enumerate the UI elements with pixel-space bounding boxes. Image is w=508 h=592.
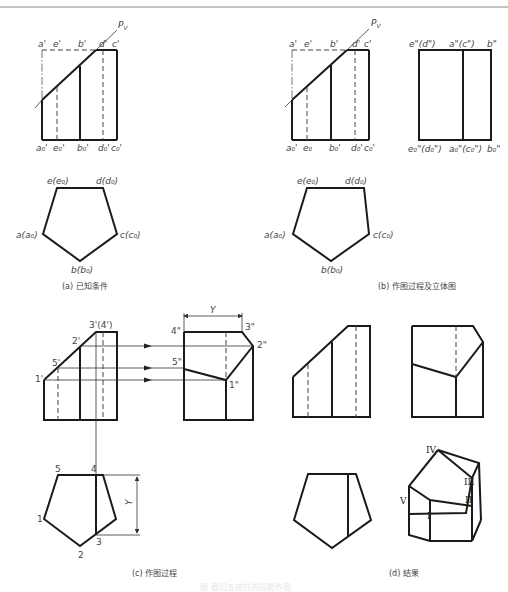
label-2: 2 <box>78 550 84 560</box>
label-c0-prime: c₀' <box>364 143 375 153</box>
panel-c-side-view: Y 4" 3" 2" 5" 1" <box>171 305 267 420</box>
label-e0-dd: e₀"(d₀") <box>408 144 442 154</box>
label-a-dd: a"(c") <box>449 39 475 49</box>
label-e-dd: e"(d") <box>409 39 436 49</box>
label-b-prime: b' <box>78 39 86 49</box>
label-e0: e₀ <box>303 143 313 153</box>
label-b-prime: b' <box>330 39 338 49</box>
label-1: 1 <box>37 514 43 524</box>
label-b0-prime: b₀' <box>77 143 89 153</box>
plane-label: PV <box>118 20 128 31</box>
panel-b: PV a' e' b' d' c' a₀' e₀ b₀' d₀' c₀' e"(… <box>264 18 500 291</box>
caption-c: (c) 作图过程 <box>132 568 177 578</box>
label-a-prime: a' <box>38 39 46 49</box>
label-v: V <box>399 496 407 506</box>
label-e: e(e₀) <box>47 176 69 186</box>
panel-d-front-view <box>293 326 370 417</box>
label-2-dd: 2" <box>257 340 267 350</box>
label-c-prime: c' <box>112 39 119 49</box>
caption-d: (d) 结果 <box>389 568 419 578</box>
label-b0-prime: b₀' <box>329 143 341 153</box>
label-c: c(c₀) <box>373 230 394 240</box>
label-i: I <box>427 511 431 521</box>
label-c0-prime: c₀' <box>111 143 122 153</box>
drawing-canvas: PV a' e' b' d' c' a₀' e₀' b₀' d₀' c₀' e(… <box>0 0 508 592</box>
label-3: 3 <box>96 537 102 547</box>
label-5-prime: 5' <box>52 358 60 368</box>
panel-d-isometric: IV III II I V <box>399 445 481 541</box>
panel-c-front-view: 3'(4') 2' 5' 1' <box>35 320 117 475</box>
dimension-y-top: Y <box>124 498 134 505</box>
label-ii: II <box>465 495 473 505</box>
label-a-prime: a' <box>289 39 297 49</box>
label-a: a(a₀) <box>264 230 286 240</box>
panel-d: IV III II I V (d) 结果 <box>293 326 483 578</box>
label-4-dd: 4" <box>171 326 181 336</box>
label-d: d(d₀) <box>345 176 367 186</box>
label-iv: IV <box>426 445 437 455</box>
label-3-4-prime: 3'(4') <box>89 320 112 330</box>
panel-a-top-view: e(e₀) d(d₀) c(c₀) b(b₀) a(a₀) <box>16 176 141 275</box>
label-c-prime: c' <box>364 39 371 49</box>
label-e: e(e₀) <box>297 176 319 186</box>
label-4: 4 <box>91 464 97 474</box>
label-c: c(c₀) <box>120 230 141 240</box>
label-a0-prime: a₀' <box>286 143 298 153</box>
panel-a-front-view: PV a' e' b' d' c' a₀' e₀' b₀' d₀' c₀' <box>35 20 128 153</box>
panel-b-top-view: e(e₀) d(d₀) c(c₀) b(b₀) a(a₀) <box>264 176 394 275</box>
panel-d-side-view <box>412 326 483 417</box>
label-1-dd: 1" <box>229 380 239 390</box>
caption-b: (b) 作图过程及立体图 <box>378 281 456 291</box>
label-a: a(a₀) <box>16 230 38 240</box>
panel-d-top-view <box>294 474 371 548</box>
label-b: b(b₀) <box>321 265 343 275</box>
label-d-prime: d' <box>352 39 360 49</box>
label-d-prime: d' <box>99 39 107 49</box>
figure-caption: 图 截切五棱柱的投影作图 <box>200 582 291 592</box>
label-d: d(d₀) <box>96 176 118 186</box>
label-a0-prime: a₀' <box>36 143 48 153</box>
label-d0-prime: d₀' <box>98 143 110 153</box>
panel-a: PV a' e' b' d' c' a₀' e₀' b₀' d₀' c₀' e(… <box>16 20 141 291</box>
label-b: b(b₀) <box>71 265 93 275</box>
label-3-dd: 3" <box>245 322 255 332</box>
label-e0-prime: e₀' <box>53 143 65 153</box>
caption-a: (a) 已知条件 <box>62 281 108 291</box>
panel-c: 3'(4') 2' 5' 1' Y 4" 3" 2" 5" <box>35 305 267 578</box>
label-2-prime: 2' <box>72 336 80 346</box>
label-a0-dd: a₀"(c₀") <box>449 144 482 154</box>
dimension-y-side: Y <box>210 305 217 315</box>
panel-b-front-view: PV a' e' b' d' c' a₀' e₀ b₀' d₀' c₀' <box>285 18 381 153</box>
projection-lines <box>44 344 253 383</box>
panel-c-top-view: Y 5 4 1 2 3 <box>37 464 140 560</box>
label-d0-prime: d₀' <box>351 143 363 153</box>
label-5-dd: 5" <box>172 357 182 367</box>
label-b0-dd: b₀" <box>487 144 500 154</box>
plane-label-b: PV <box>371 18 381 29</box>
panel-b-side-view: e"(d") a"(c") b" e₀"(d₀") a₀"(c₀") b₀" <box>408 39 500 154</box>
label-e-prime: e' <box>304 39 312 49</box>
label-5: 5 <box>55 464 61 474</box>
label-iii: III <box>464 477 475 487</box>
label-b-dd: b" <box>487 39 497 49</box>
label-e-prime: e' <box>53 39 61 49</box>
label-1-prime: 1' <box>35 374 43 384</box>
